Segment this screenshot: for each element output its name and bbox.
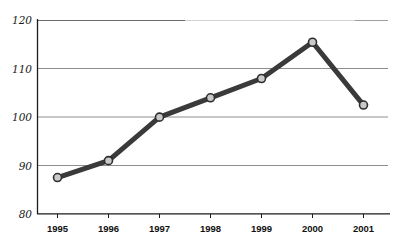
data-line-series	[58, 42, 364, 177]
data-point-markers	[54, 38, 368, 181]
data-point-2000	[309, 38, 317, 46]
data-point-1995	[54, 174, 62, 182]
gridlines	[37, 21, 388, 166]
x-tick-label-2000: 2000	[302, 223, 323, 234]
data-point-1996	[105, 157, 113, 165]
data-point-1997	[156, 113, 164, 121]
x-tick-label-1999: 1999	[251, 223, 272, 234]
y-tick-label-120: 120	[12, 14, 32, 26]
y-tick-label-80: 80	[19, 208, 33, 220]
x-axis-labels: 1995 1996 1997 1998 1999 2000 2001	[47, 223, 375, 234]
x-tick-label-2001: 2001	[353, 223, 375, 234]
y-tick-label-100: 100	[12, 111, 32, 123]
data-point-1999	[258, 74, 266, 82]
x-tick-label-1996: 1996	[98, 223, 119, 234]
data-point-1998	[207, 94, 215, 102]
y-tick-label-110: 110	[12, 63, 32, 75]
line-chart: 120 110 100 90 80 1995 1996 1997 1998 19…	[0, 0, 401, 248]
x-tick-marks	[58, 214, 364, 218]
x-tick-label-1998: 1998	[200, 223, 221, 234]
x-tick-label-1997: 1997	[149, 223, 170, 234]
data-point-2001	[360, 101, 368, 109]
y-axis-labels: 120 110 100 90 80	[12, 14, 32, 220]
y-tick-label-90: 90	[19, 160, 33, 172]
x-tick-label-1995: 1995	[47, 223, 69, 234]
chart-canvas: 120 110 100 90 80 1995 1996 1997 1998 19…	[0, 0, 401, 248]
